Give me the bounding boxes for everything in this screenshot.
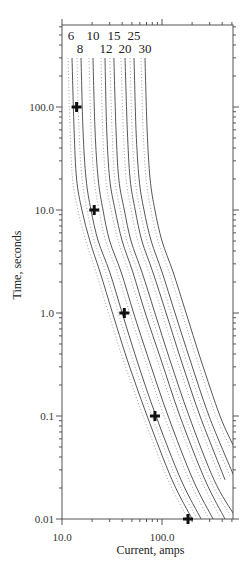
y-tick-label: 1.0 bbox=[40, 307, 54, 319]
curve-label: 6 bbox=[68, 28, 75, 43]
curve-label: 8 bbox=[77, 41, 84, 56]
plus-marker bbox=[150, 411, 160, 421]
curve-10 bbox=[93, 58, 213, 519]
plus-marker bbox=[183, 514, 193, 524]
curve-min-band-6 bbox=[68, 58, 188, 519]
y-tick-label: 10.0 bbox=[35, 204, 55, 216]
tcc-chart: 0.010.11.010.0100.010.0100.0Current, amp… bbox=[0, 0, 252, 579]
axis-ticks bbox=[56, 19, 239, 525]
curve-12 bbox=[105, 58, 225, 519]
curve-label: 10 bbox=[87, 28, 100, 43]
curve-20 bbox=[125, 58, 225, 480]
fuse-curves bbox=[68, 58, 234, 519]
plot-border bbox=[62, 25, 233, 519]
x-axis-title: Current, amps bbox=[117, 543, 185, 557]
y-tick-label: 100.0 bbox=[29, 101, 54, 113]
x-tick-label: 10.0 bbox=[52, 531, 72, 543]
curve-8 bbox=[81, 58, 201, 519]
axis-labels: 0.010.11.010.0100.010.0100.0Current, amp… bbox=[10, 28, 185, 557]
curve-label: 12 bbox=[100, 41, 113, 56]
curve-label: 20 bbox=[119, 41, 132, 56]
y-tick-label: 0.1 bbox=[40, 410, 54, 422]
plot-frame bbox=[62, 25, 233, 519]
x-tick-label: 100.0 bbox=[150, 531, 175, 543]
y-tick-label: 0.01 bbox=[35, 513, 54, 525]
curve-label: 30 bbox=[139, 41, 152, 56]
curve-min-band-12 bbox=[101, 58, 221, 519]
y-axis-title: Time, seconds bbox=[10, 230, 24, 299]
